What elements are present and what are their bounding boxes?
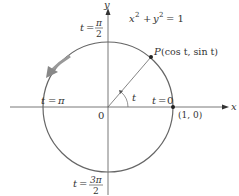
- svg-text:=: =: [86, 22, 94, 33]
- counterclockwise-arrow-icon: [51, 56, 70, 71]
- svg-text:π: π: [95, 18, 103, 28]
- svg-text:= 1: = 1: [166, 13, 184, 24]
- radius-line: [108, 57, 151, 107]
- point-P-label: P (cos t, sin t): [153, 46, 218, 57]
- svg-text:t: t: [80, 22, 85, 33]
- svg-text:(cos t, sin t): (cos t, sin t): [161, 46, 218, 57]
- x-axis-arrow-icon: [222, 105, 229, 110]
- angle-label: t: [132, 92, 137, 103]
- svg-text:3π: 3π: [90, 175, 103, 185]
- svg-text:π: π: [57, 95, 65, 106]
- svg-text:=: =: [158, 95, 166, 106]
- svg-text:t: t: [152, 95, 157, 106]
- x-axis-label: x: [231, 101, 237, 112]
- svg-text:P: P: [153, 46, 161, 57]
- unit-circle-diagram: y x 0 x 2 + y 2 = 1 P (cos t, sin t) (1,…: [0, 0, 239, 196]
- svg-text:2: 2: [96, 29, 102, 39]
- svg-text:2: 2: [135, 11, 139, 19]
- y-axis-label: y: [103, 0, 110, 10]
- svg-text:=: =: [48, 95, 56, 106]
- point-1-0-label: (1, 0): [178, 110, 202, 120]
- svg-text:y: y: [152, 13, 159, 24]
- point-P: [149, 55, 153, 59]
- svg-text:0: 0: [167, 95, 173, 106]
- svg-text:t: t: [73, 178, 78, 189]
- t-pi-label: t = π: [41, 95, 65, 106]
- origin-label: 0: [98, 110, 104, 121]
- circle-equation: x 2 + y 2 = 1: [129, 11, 184, 24]
- svg-text:2: 2: [93, 186, 99, 196]
- svg-text:=: =: [79, 178, 87, 189]
- svg-text:+: +: [143, 13, 151, 24]
- t-3pi-over-2-label: t = 3π 2: [73, 175, 103, 196]
- svg-text:t: t: [41, 95, 46, 106]
- svg-text:2: 2: [159, 11, 163, 19]
- t-zero-label: t = 0: [152, 95, 173, 106]
- angle-arc: [121, 92, 128, 107]
- t-pi-over-2-label: t = π 2: [80, 18, 103, 39]
